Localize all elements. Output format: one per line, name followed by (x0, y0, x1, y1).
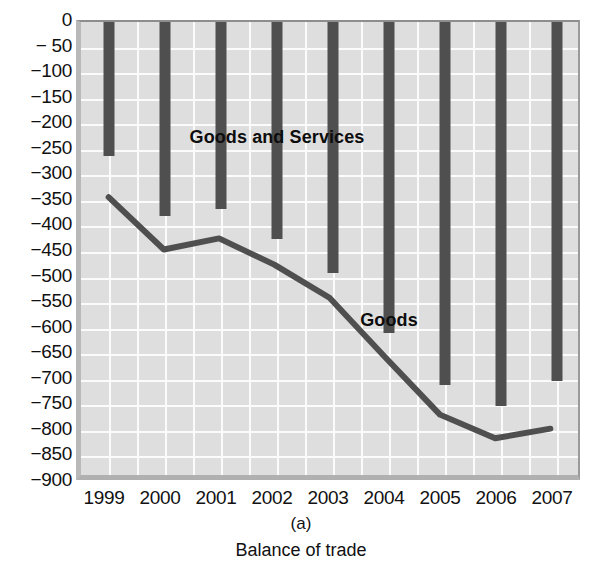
x-tick-label: 2007 (531, 487, 572, 509)
y-tick-label: −100 (0, 61, 72, 80)
x-tick-label: 1999 (83, 487, 124, 509)
series-label-bar: Goods and Services (190, 127, 365, 148)
y-tick-label: −600 (0, 317, 72, 336)
y-tick-label: 0 (0, 10, 72, 29)
x-tick-label: 2003 (307, 487, 348, 509)
y-tick-label: −800 (0, 419, 72, 438)
figure-caption: Balance of trade (0, 540, 602, 561)
y-tick-label: −400 (0, 214, 72, 233)
y-tick-label: −650 (0, 342, 72, 361)
y-tick-label: −450 (0, 240, 72, 259)
plot-area: Goods and ServicesGoods (81, 22, 578, 475)
y-tick-label: − 50 (0, 36, 72, 55)
x-tick-label: 2004 (363, 487, 404, 509)
y-axis: 0− 50−100−150−200−250−300−350−400−450−50… (0, 0, 72, 500)
y-tick-label: −200 (0, 112, 72, 131)
y-tick-label: −300 (0, 163, 72, 182)
balance-of-trade-figure: 0− 50−100−150−200−250−300−350−400−450−50… (0, 0, 602, 567)
x-tick-label: 2005 (419, 487, 460, 509)
y-tick-label: −350 (0, 189, 72, 208)
line-series-goods (81, 22, 578, 475)
panel-letter: (a) (0, 514, 602, 534)
y-tick-label: −550 (0, 291, 72, 310)
y-tick-label: −850 (0, 444, 72, 463)
y-tick-label: −900 (0, 470, 72, 489)
x-axis: 199920002001200220032004200520062007 (76, 487, 580, 513)
series-label-line: Goods (360, 309, 418, 330)
x-tick-label: 2001 (195, 487, 236, 509)
x-tick-label: 2002 (251, 487, 292, 509)
y-tick-label: −700 (0, 368, 72, 387)
y-tick-label: −150 (0, 87, 72, 106)
y-tick-label: −250 (0, 138, 72, 157)
x-tick-label: 2006 (475, 487, 516, 509)
y-tick-label: −500 (0, 266, 72, 285)
x-tick-label: 2000 (139, 487, 180, 509)
plot-frame: Goods and ServicesGoods (76, 20, 580, 480)
y-tick-label: −750 (0, 393, 72, 412)
